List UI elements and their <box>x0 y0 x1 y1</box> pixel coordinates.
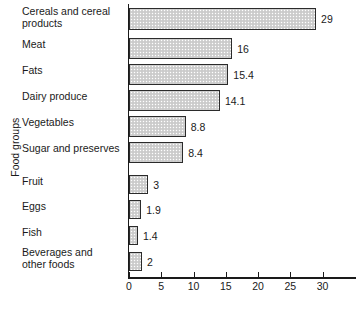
x-axis-tick <box>194 272 195 277</box>
bar <box>129 116 186 137</box>
x-axis-tick-label: 25 <box>278 280 302 292</box>
x-axis-tick <box>226 272 227 277</box>
x-axis-tick <box>290 272 291 277</box>
bar <box>129 8 316 30</box>
category-label-line1: Eggs <box>22 201 128 213</box>
category-label: Vegetables <box>22 117 128 129</box>
bar <box>129 64 228 85</box>
x-axis-tick-label: 0 <box>117 280 141 292</box>
bar <box>129 200 141 219</box>
category-label-line1: Sugar and preserves <box>22 143 128 155</box>
x-axis-tick <box>161 272 162 277</box>
category-label-line1: Fish <box>22 227 128 239</box>
bar <box>129 226 138 245</box>
category-label: Cereals and cereal products <box>22 6 128 29</box>
bar-value-label: 2 <box>147 257 153 268</box>
x-axis-tick-label: 20 <box>246 280 270 292</box>
category-label: Sugar and preserves <box>22 143 128 155</box>
bar-value-label: 8.4 <box>188 148 203 159</box>
category-label-line1: Beverages and <box>22 247 128 259</box>
category-label-line2: products <box>22 18 128 30</box>
category-label: Dairy produce <box>22 91 128 103</box>
x-axis-tick <box>129 272 130 277</box>
x-axis-tick <box>323 272 324 277</box>
x-axis-tick-label: 10 <box>182 280 206 292</box>
category-label: Fish <box>22 227 128 239</box>
bar <box>129 38 232 59</box>
bar-value-label: 8.8 <box>191 122 206 133</box>
x-axis-line <box>128 277 356 278</box>
bar <box>129 90 220 111</box>
x-axis-tick-label: 30 <box>311 280 335 292</box>
bar-value-label: 1.9 <box>146 205 161 216</box>
category-label: Beverages and other foods <box>22 247 128 270</box>
category-label-line1: Fats <box>22 65 128 77</box>
category-label-line2: other foods <box>22 259 128 271</box>
bar-value-label: 29 <box>321 14 333 25</box>
category-label: Fats <box>22 65 128 77</box>
category-label-line1: Fruit <box>22 176 128 188</box>
category-label-line1: Dairy produce <box>22 91 128 103</box>
bar <box>129 175 148 194</box>
bar <box>129 142 183 163</box>
category-label-line1: Vegetables <box>22 117 128 129</box>
category-label: Eggs <box>22 201 128 213</box>
bar-value-label: 14.1 <box>225 96 245 107</box>
category-label-line1: Cereals and cereal <box>22 6 128 18</box>
bar-value-label: 15.4 <box>233 70 253 81</box>
bar-chart: Food groups Cereals and cereal products … <box>0 0 363 309</box>
category-label: Meat <box>22 39 128 51</box>
category-label-line1: Meat <box>22 39 128 51</box>
bar-value-label: 1.4 <box>143 231 158 242</box>
x-axis-tick-label: 15 <box>214 280 238 292</box>
category-label: Fruit <box>22 176 128 188</box>
x-axis-tick <box>258 272 259 277</box>
x-axis-title <box>128 299 363 309</box>
bar <box>129 252 142 271</box>
bar-value-label: 16 <box>237 44 249 55</box>
y-axis-title: Food groups <box>10 104 21 190</box>
x-axis-tick-label: 5 <box>149 280 173 292</box>
bar-value-label: 3 <box>153 180 159 191</box>
